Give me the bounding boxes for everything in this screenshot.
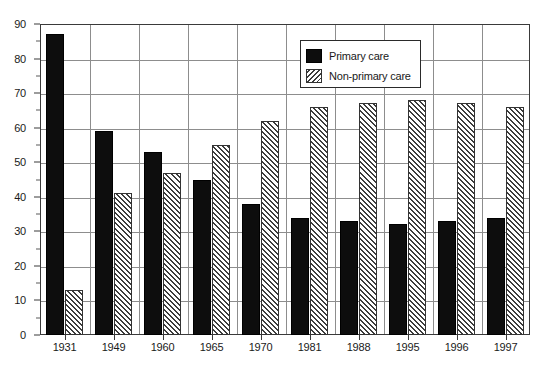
bar-primary-care	[46, 34, 64, 335]
bar-chart: 0102030405060708090193119491960196519701…	[0, 0, 550, 377]
gridline-vertical	[237, 25, 238, 334]
bar-non-primary-care	[114, 193, 132, 335]
gridline-horizontal	[41, 129, 529, 130]
legend-label-non-primary-care: Non-primary care	[329, 70, 411, 82]
bar-non-primary-care	[408, 100, 426, 335]
bar-primary-care	[144, 152, 162, 335]
legend-item-primary-care: Primary care	[306, 46, 415, 65]
y-axis-minor-tick	[36, 179, 40, 180]
y-axis-tick	[34, 58, 40, 59]
bar-non-primary-care	[457, 103, 475, 335]
legend-label-primary-care: Primary care	[329, 50, 389, 62]
gridline-vertical	[188, 25, 189, 334]
y-axis-tick	[34, 300, 40, 301]
y-axis-tick	[34, 231, 40, 232]
hatched-swatch-icon	[306, 69, 322, 83]
y-axis-minor-tick	[36, 41, 40, 42]
bar-non-primary-care	[163, 173, 181, 335]
bar-non-primary-care	[310, 107, 328, 335]
y-axis-minor-tick	[36, 283, 40, 284]
bar-primary-care	[487, 218, 505, 335]
legend-item-non-primary-care: Non-primary care	[306, 66, 415, 85]
bar-primary-care	[242, 204, 260, 335]
y-axis-tick	[34, 265, 40, 266]
bar-non-primary-care	[506, 107, 524, 335]
gridline-vertical	[90, 25, 91, 334]
y-axis-label: 60	[0, 122, 26, 134]
x-axis-tick	[261, 335, 262, 340]
bar-primary-care	[389, 224, 407, 335]
y-axis-tick	[34, 24, 40, 25]
y-axis-label: 10	[0, 294, 26, 306]
y-axis-label: 50	[0, 156, 26, 168]
gridline-vertical	[433, 25, 434, 334]
x-axis-tick	[359, 335, 360, 340]
x-axis-tick	[457, 335, 458, 340]
x-axis-tick	[408, 335, 409, 340]
x-axis-tick	[506, 335, 507, 340]
y-axis-label: 70	[0, 87, 26, 99]
y-axis-tick	[34, 93, 40, 94]
bar-non-primary-care	[65, 290, 83, 335]
y-axis-label: 90	[0, 18, 26, 30]
solid-black-swatch-icon	[306, 49, 322, 63]
bar-primary-care	[193, 180, 211, 336]
y-axis-tick	[34, 196, 40, 197]
bar-non-primary-care	[212, 145, 230, 335]
gridline-vertical	[139, 25, 140, 334]
gridline-horizontal	[41, 163, 529, 164]
gridline-vertical	[482, 25, 483, 334]
y-axis-minor-tick	[36, 110, 40, 111]
y-axis-minor-tick	[36, 248, 40, 249]
y-axis-minor-tick	[36, 75, 40, 76]
x-axis-tick	[65, 335, 66, 340]
x-axis-tick	[212, 335, 213, 340]
x-axis-tick	[114, 335, 115, 340]
y-axis-minor-tick	[36, 144, 40, 145]
bar-primary-care	[438, 221, 456, 335]
x-axis-tick	[163, 335, 164, 340]
y-axis-label: 30	[0, 225, 26, 237]
y-axis-tick	[34, 162, 40, 163]
gridline-horizontal	[41, 94, 529, 95]
x-axis-tick	[310, 335, 311, 340]
bar-primary-care	[95, 131, 113, 335]
bar-primary-care	[340, 221, 358, 335]
y-axis-tick	[34, 127, 40, 128]
y-axis-minor-tick	[36, 214, 40, 215]
y-axis-minor-tick	[36, 317, 40, 318]
bar-non-primary-care	[359, 103, 377, 335]
y-axis-label: 40	[0, 191, 26, 203]
x-axis-label: 1997	[476, 341, 536, 353]
y-axis-label: 0	[0, 329, 26, 341]
bar-non-primary-care	[261, 121, 279, 335]
gridline-horizontal	[41, 60, 529, 61]
y-axis-tick	[34, 335, 40, 336]
y-axis-label: 80	[0, 53, 26, 65]
chart-legend: Primary care Non-primary care	[300, 40, 421, 88]
gridline-vertical	[286, 25, 287, 334]
y-axis-label: 20	[0, 260, 26, 272]
bar-primary-care	[291, 218, 309, 335]
